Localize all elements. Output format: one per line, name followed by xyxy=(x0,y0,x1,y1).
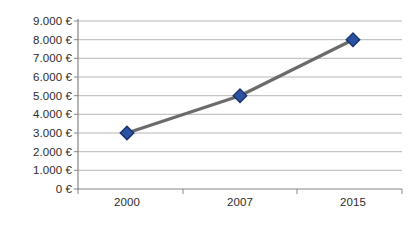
data-point-marker xyxy=(346,33,360,47)
plot-area xyxy=(0,0,415,230)
data-point-marker xyxy=(233,89,247,103)
line-chart: 9.000 € 8.000 € 7.000 € 6.000 € 5.000 € … xyxy=(0,0,415,230)
data-point-marker xyxy=(120,126,134,140)
x-axis-ticks xyxy=(78,189,402,194)
data-series-line xyxy=(127,40,353,133)
